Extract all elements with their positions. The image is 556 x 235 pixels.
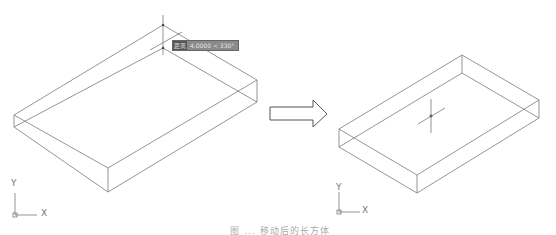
box-after-move [339,55,539,193]
diagram-canvas [0,0,556,235]
ucs-x-label-right: X [362,205,368,215]
tooltip-tag: 距离 [173,41,187,50]
ucs-x-label-left: X [41,208,47,218]
arrow-icon [270,100,327,127]
tooltip-value: 4.0000 < 330° [190,42,234,49]
ucs-icon-left [13,193,37,217]
dynamic-input-tooltip: 距离4.0000 < 330° [172,40,239,51]
ucs-icon-right [337,192,360,214]
ucs-y-label-left: Y [11,178,17,188]
figure-caption: 图 ... 移动后的长方体 [185,224,375,235]
ucs-y-label-right: Y [336,182,342,192]
